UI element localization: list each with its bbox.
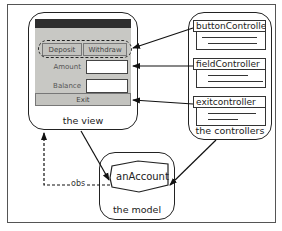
obs-label: obs — [70, 179, 86, 188]
connectors — [0, 0, 282, 231]
model-object-name: anAccount — [116, 171, 169, 182]
